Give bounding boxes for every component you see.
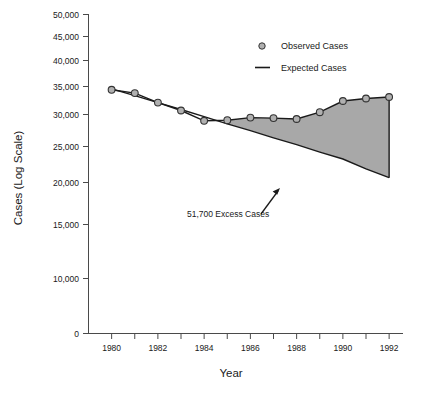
y-axis-title: Cases (Log Scale) [12,131,24,226]
legend-label-observed: Observed Cases [281,41,349,51]
y-tick-label: 20,000 [53,178,79,188]
cases-log-scale-line-chart: 50,000 45,000 40,000 35,000 30,000 25,00… [0,0,431,393]
x-tick-label: 1988 [287,343,306,353]
y-tick-label: 35,000 [53,82,79,92]
observed-case-marker [178,107,185,114]
observed-case-marker [155,99,162,106]
observed-case-marker [316,109,323,116]
observed-case-marker [201,117,208,124]
y-tick-label: 50,000 [53,10,79,20]
observed-case-marker [270,115,277,122]
x-tick-label: 1982 [148,343,167,353]
y-tick-label: 10,000 [53,274,79,284]
x-tick-label: 1980 [102,343,121,353]
x-axis-title: Year [219,367,242,379]
observed-case-marker [363,95,370,102]
observed-case-marker [293,116,300,123]
x-tick-label: 1992 [380,343,399,353]
y-tick-label: 30,000 [53,110,79,120]
y-tick-label: 0 [74,329,79,339]
observed-case-marker [386,94,393,101]
excess-cases-annotation-label: 51,700 Excess Cases [187,209,269,219]
observed-case-marker [224,117,231,124]
legend-label-expected: Expected Cases [281,63,347,73]
y-tick-label: 25,000 [53,142,79,152]
x-tick-label: 1984 [195,343,214,353]
x-tick-label: 1990 [333,343,352,353]
observed-case-marker [131,90,138,97]
y-tick-label: 40,000 [53,56,79,66]
observed-case-marker [108,86,115,93]
x-tick-label: 1986 [241,343,260,353]
chart-container: 50,000 45,000 40,000 35,000 30,000 25,00… [0,0,431,393]
y-tick-label: 15,000 [53,220,79,230]
y-tick-label: 45,000 [53,32,79,42]
observed-case-marker [247,114,254,121]
legend-circle-marker-icon [259,43,265,49]
observed-case-marker [340,98,347,105]
